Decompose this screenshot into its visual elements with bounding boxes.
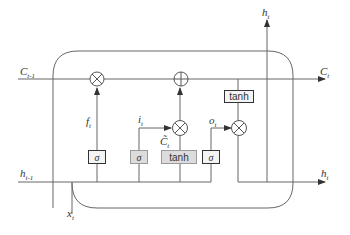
forget-sigma-box: σ: [88, 150, 106, 164]
cell-tanh-box: tanh: [224, 90, 254, 103]
h-out-right-label: ht: [321, 168, 328, 182]
tanh-label: tanh: [169, 152, 188, 163]
output-sigma-box: σ: [202, 150, 220, 164]
lstm-diagram-canvas: [0, 0, 350, 235]
candidate-tanh-box: tanh: [161, 150, 197, 164]
input-multiply-icon: [173, 121, 188, 136]
c-next-label: Ct: [320, 66, 329, 80]
input-sigma-box: σ: [130, 150, 148, 164]
h-prev-label: ht-1: [20, 168, 33, 182]
cell-add-icon: [174, 72, 188, 86]
sigma-label: σ: [209, 152, 214, 163]
forget-gate-label: ft: [86, 116, 91, 130]
input-gate-label: it: [138, 114, 143, 128]
output-multiply-icon: [232, 121, 247, 136]
c-prev-label: Ct-1: [20, 66, 35, 80]
forget-multiply-icon: [90, 72, 104, 86]
candidate-label: C̃t: [160, 136, 169, 150]
h-out-top-label: ht: [262, 7, 269, 21]
output-gate-label: ot: [209, 115, 216, 129]
sigma-label: σ: [137, 152, 142, 163]
sigma-label: σ: [95, 152, 100, 163]
tanh-label: tanh: [229, 91, 248, 102]
x-input-label: xt: [67, 208, 74, 222]
